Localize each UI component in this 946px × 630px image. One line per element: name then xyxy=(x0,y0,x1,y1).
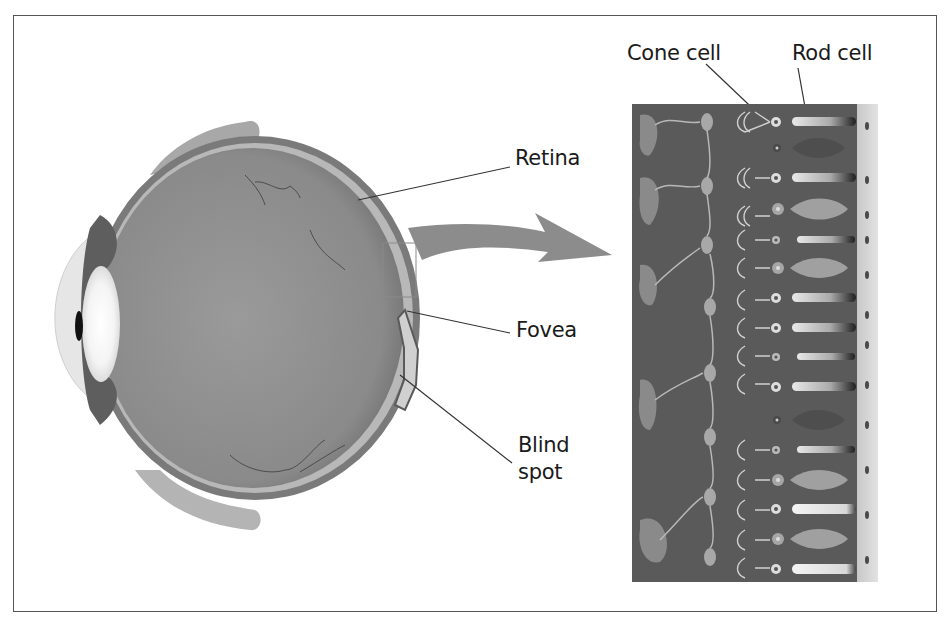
blind-spot-label-line2: spot xyxy=(518,459,562,485)
eyeball-interior xyxy=(100,148,404,488)
cone-cell-label: Cone cell xyxy=(627,40,721,66)
zoom-arrow xyxy=(408,213,612,262)
fovea-label: Fovea xyxy=(516,317,577,343)
rod-cell-label: Rod cell xyxy=(792,40,872,66)
eye-diagram xyxy=(0,0,946,630)
retina-label: Retina xyxy=(515,145,580,171)
blind-spot-label-line1: Blind xyxy=(518,432,569,458)
retina-panel xyxy=(632,104,878,582)
pupil xyxy=(75,311,83,341)
lens xyxy=(82,266,120,382)
